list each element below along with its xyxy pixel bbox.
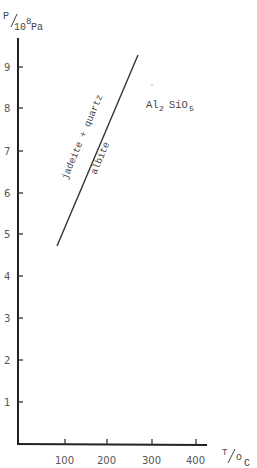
svg-text:albite: albite <box>89 140 113 176</box>
y-ticks: 1 2 3 4 5 6 7 8 9 <box>4 62 23 408</box>
x-ticks: 100 200 300 400 <box>55 439 205 466</box>
svg-text:2: 2 <box>159 104 164 113</box>
x-label-c: C <box>244 458 250 468</box>
y-tick-label: 2 <box>4 355 10 366</box>
svg-text:Al: Al <box>146 99 159 111</box>
speck <box>151 84 152 85</box>
label-albite: albite <box>89 140 113 176</box>
label-al2sio5: Al 2 SiO 5 <box>146 99 194 113</box>
y-tick-label: 1 <box>4 397 10 408</box>
svg-text:SiO: SiO <box>169 99 188 111</box>
y-label-base: 10 <box>14 22 26 33</box>
x-tick-label: 100 <box>55 455 74 466</box>
x-tick-label: 400 <box>186 455 205 466</box>
x-tick-label: 200 <box>97 455 116 466</box>
x-label-slash <box>228 449 235 463</box>
x-axis <box>17 444 207 445</box>
x-label-degree: o <box>236 452 242 463</box>
y-axis-label: P 10 8 Pa <box>3 11 43 33</box>
svg-text:5: 5 <box>189 104 194 113</box>
phase-diagram: P 10 8 Pa 1 2 3 4 5 6 7 8 9 100 200 300 <box>0 0 257 468</box>
y-tick-label: 9 <box>4 62 10 73</box>
y-tick-label: 4 <box>4 271 10 282</box>
y-label-p: P <box>3 11 9 22</box>
y-tick-label: 6 <box>4 188 10 199</box>
y-label-pa: Pa <box>31 22 43 33</box>
y-tick-label: 3 <box>4 313 10 324</box>
y-tick-label: 8 <box>4 103 10 114</box>
x-label-t: T <box>222 448 228 458</box>
x-tick-label: 300 <box>142 455 161 466</box>
y-tick-label: 5 <box>4 229 10 240</box>
y-tick-label: 7 <box>4 146 10 157</box>
x-axis-label: T o C <box>222 448 250 468</box>
